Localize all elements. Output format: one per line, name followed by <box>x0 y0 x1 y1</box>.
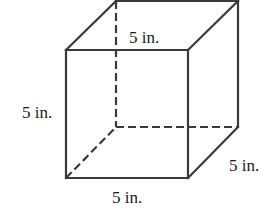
top-dimension-label: 5 in. <box>129 28 159 47</box>
bottom-dimension-label: 5 in. <box>112 188 142 207</box>
hidden-bottom-left-depth-edge <box>66 127 116 178</box>
top-left-depth-edge <box>66 1 116 50</box>
right-dimension-label: 5 in. <box>229 156 259 175</box>
left-dimension-label: 5 in. <box>22 103 52 122</box>
cube-diagram: 5 in. 5 in. 5 in. 5 in. <box>0 0 277 212</box>
top-right-depth-edge <box>188 1 238 50</box>
